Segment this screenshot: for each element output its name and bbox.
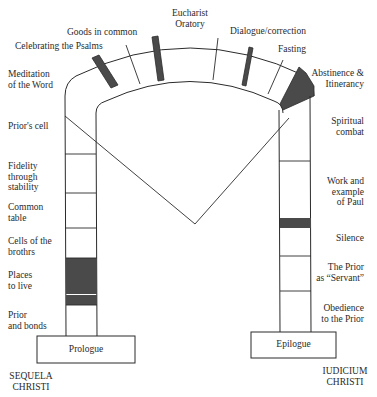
label-priors-cell: Prior's cell bbox=[8, 121, 49, 132]
right-pillar-shade-silence bbox=[280, 218, 311, 228]
arch-divider-2 bbox=[213, 38, 218, 80]
sequela-christi-label: SEQUELA CHRISTI bbox=[6, 371, 56, 392]
iudicium-christi-label: IUDICIUM CHRISTI bbox=[318, 366, 372, 387]
arch-inner-curve bbox=[96, 82, 283, 114]
label-psalms: Celebrating the Psalms bbox=[15, 41, 103, 52]
arch-shade-dialogue bbox=[242, 47, 253, 86]
arch-divider-1 bbox=[126, 45, 140, 84]
label-obedience: Obedience to the Prior bbox=[300, 303, 364, 324]
label-fasting: Fasting bbox=[278, 44, 306, 55]
label-dialogue: Dialogue/correction bbox=[230, 26, 306, 37]
v-shape bbox=[65, 116, 289, 224]
arch-shade-eucharist bbox=[152, 36, 164, 81]
label-abstinence: Abstinence & Itinerancy bbox=[300, 68, 364, 89]
left-pillar-shade-places bbox=[66, 258, 97, 294]
label-common-table: Common table bbox=[8, 202, 43, 223]
label-cells: Cells of the brothrs bbox=[8, 236, 52, 257]
left-pillar-shade-places-2 bbox=[66, 295, 97, 305]
label-fidelity: Fidelity through stability bbox=[8, 161, 39, 193]
label-work-paul: Work and example of Paul bbox=[310, 176, 364, 208]
prologue-label: Prologue bbox=[37, 344, 135, 355]
right-pillar-inner bbox=[279, 110, 280, 332]
left-pillar-outer bbox=[65, 96, 66, 336]
label-goods: Goods in common bbox=[67, 27, 137, 38]
label-places: Places to live bbox=[8, 270, 32, 291]
label-prior-servant: The Prior as “Servant” bbox=[300, 262, 364, 283]
label-silence: Silence bbox=[310, 233, 364, 244]
arch-divider-3 bbox=[268, 60, 283, 94]
label-eucharist: Eucharist Oratory bbox=[152, 8, 228, 29]
label-prior-bonds: Prior and bonds bbox=[8, 310, 47, 331]
label-spiritual-combat: Spiritual combat bbox=[310, 116, 364, 137]
epilogue-label: Epilogue bbox=[251, 339, 336, 350]
label-meditation: Meditation of the Word bbox=[8, 69, 53, 90]
